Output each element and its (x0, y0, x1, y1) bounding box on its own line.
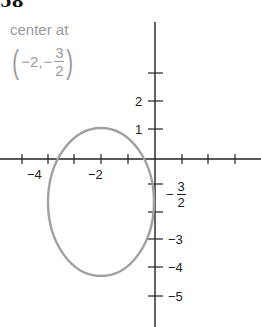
center-y-fraction: 3 2 (54, 45, 64, 78)
y-tick-label: 1 (135, 123, 142, 136)
center-y-minus: − (44, 54, 53, 69)
frac-numerator: 3 (55, 45, 63, 60)
y-tick-label: −3 (168, 233, 183, 246)
ellipse-curve (48, 128, 154, 276)
x-tick-label: −4 (27, 168, 42, 181)
open-paren: ( (12, 44, 19, 78)
y-tick-label: 2 (135, 95, 142, 108)
frac-denominator: 2 (55, 63, 63, 78)
frac-numerator: 3 (177, 180, 184, 193)
close-paren: ) (67, 44, 74, 78)
y-tick-label-fraction: − 3 2 (166, 180, 186, 209)
y-tick-label: −4 (168, 261, 183, 274)
y-tick-label: −5 (168, 290, 183, 303)
center-annotation-coords: ( −2, − 3 2 ) (10, 44, 76, 78)
frac-minus: − (166, 188, 174, 201)
y-fraction: 3 2 (177, 180, 186, 209)
center-annotation-label: center at (10, 22, 68, 37)
x-tick-label: −2 (88, 168, 103, 181)
frac-denominator: 2 (177, 196, 184, 209)
center-x: −2, (21, 54, 42, 69)
